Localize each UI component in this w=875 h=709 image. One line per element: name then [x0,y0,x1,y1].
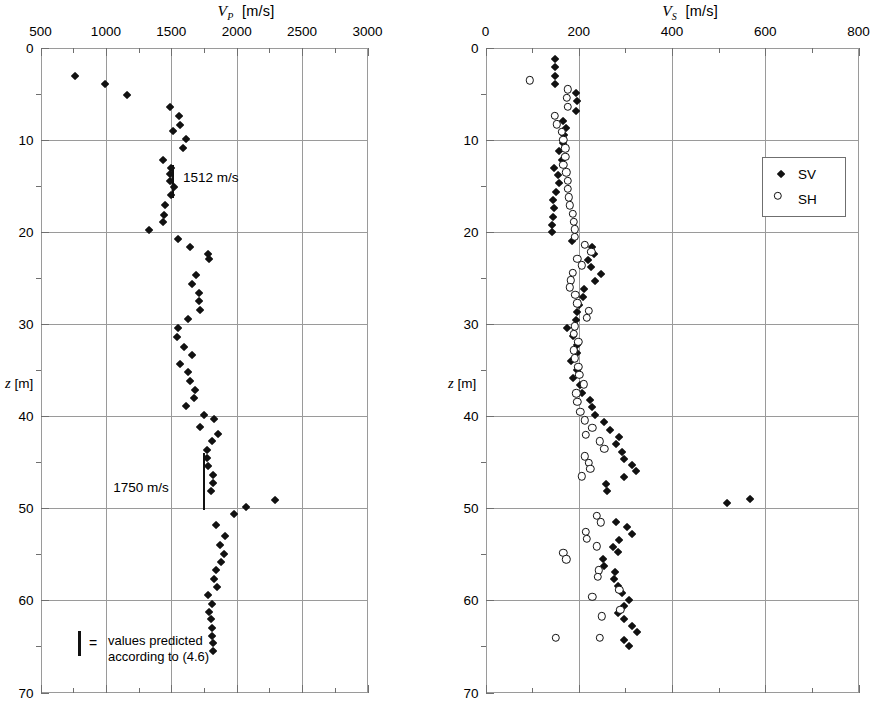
chart-vp-profile-ytick-minor [36,646,41,647]
chart-vp-profile-xtick-major [302,685,303,693]
chart-vp-profile-ytick-label: 30 [1,316,34,331]
chart-vp-profile-xtick-label: 2500 [287,24,317,39]
chart-vs-profile-ytick-label: 70 [446,685,479,700]
chart-vs-profile-ytick-minor [481,186,486,187]
chart-vs-profile-ytick-minor [481,554,486,555]
chart-vs-profile-ytick-label: 10 [446,132,479,147]
chart-vp-profile-gridline-y [41,600,368,601]
chart-vp-profile-xtick-minor [139,48,140,53]
chart-vp-profile-ytick-label: 10 [1,132,34,147]
vs-legend-box [762,157,846,217]
chart-vp-profile-ytick-minor [36,370,41,371]
chart-vp-profile-xtick-major [237,685,238,693]
chart-vp-profile-xtick-label: 1500 [156,24,186,39]
chart-vs-profile-ytick-major [486,140,494,141]
chart-vp-profile-ytick-label: 0 [1,40,34,55]
chart-vp-profile-xtick-major [302,48,303,56]
chart-vs-profile-gridline-y [486,232,859,233]
chart-vp-profile-y-axis-label: z [m] [5,375,33,392]
chart-vs-profile-xtick-label: 200 [567,24,590,39]
chart-vp-profile-xtick-major [237,48,238,56]
chart-vp-profile-xtick-label: 1000 [91,24,121,39]
chart-vp-profile-predicted-label: 1512 m/s [183,169,239,184]
chart-vs-profile-ytick-major [486,48,494,49]
chart-vs-profile-ytick-label: 50 [446,501,479,516]
chart-vp-profile-ytick-label: 20 [1,224,34,239]
chart-vp-profile-xtick-minor [73,48,74,53]
chart-vs-profile-y-axis-label: z [m] [448,375,476,392]
chart-vp-profile-gridline-x [237,48,238,693]
chart-vp-profile-ytick-major [41,693,49,694]
chart-vp-profile-gridline-y [41,140,368,141]
chart-vp-profile-xtick-minor [204,688,205,693]
chart-vs-profile-gridline-y [486,324,859,325]
chart-vs-profile-ytick-label: 40 [446,409,479,424]
chart-vp-profile-xtick-major [368,48,369,56]
chart-vp-profile-xtick-label: 500 [29,24,52,39]
vp-legend-line-2: according to (4.6) [108,649,209,665]
chart-vs-profile-gridline-y [486,140,859,141]
figure-canvas: VP [m/s]z [m]500100015002000250030000102… [0,0,875,709]
chart-vs-profile-ytick-major [486,693,494,694]
chart-vs-profile-ytick-major [486,416,494,417]
chart-vp-profile-predicted-bar [203,453,206,510]
chart-vs-profile-ytick-minor [481,646,486,647]
chart-vs-profile-xtick-minor [812,48,813,53]
chart-vp-profile-xtick-minor [335,48,336,53]
chart-vp-profile-xtick-label: 3000 [352,24,382,39]
chart-vp-profile-xtick-major [171,48,172,56]
chart-vp-profile-ytick-major [41,232,49,233]
vp-legend-equals: = [89,635,97,651]
chart-vp-profile-ytick-label: 40 [1,409,34,424]
chart-vp-profile-gridline-y [41,232,368,233]
chart-vp-profile-ytick-minor [36,186,41,187]
chart-vs-profile-ytick-label: 60 [446,593,479,608]
chart-vs-profile-xtick-major [765,685,766,693]
chart-vs-profile-ytick-major [486,232,494,233]
chart-vs-profile-xtick-major [672,685,673,693]
chart-vp-profile-gridline-x [302,48,303,693]
chart-vp-profile-xtick-minor [139,688,140,693]
chart-vs-profile-xtick-major [579,685,580,693]
chart-vs-profile-ytick-minor [481,370,486,371]
chart-vs-profile-ytick-minor [481,462,486,463]
chart-vp-profile-ytick-major [41,508,49,509]
chart-vs-profile-xtick-label: 400 [661,24,684,39]
chart-vs-profile-ytick-label: 0 [446,40,479,55]
chart-vs-profile-ytick-minor [481,94,486,95]
chart-vp-profile-xtick-major [368,685,369,693]
chart-vs-profile-xtick-minor [719,48,720,53]
chart-vp-profile-ytick-label: 60 [1,593,34,608]
chart-vp-profile-xtick-major [41,48,42,56]
chart-vp-profile-ytick-minor [36,554,41,555]
chart-vp-profile-xtick-major [41,685,42,693]
chart-vp-profile-xtick-minor [73,688,74,693]
chart-vs-profile-xtick-major [579,48,580,56]
chart-vp-profile-gridline-x [171,48,172,693]
chart-vp-profile-gridline-x [106,48,107,693]
chart-vs-profile-gridline-x [765,48,766,693]
chart-vs-profile-xtick-major [486,685,487,693]
chart-vp-profile-xtick-minor [335,688,336,693]
chart-vp-profile-ytick-label: 50 [1,501,34,516]
vs-legend-label-sh: SH [798,192,817,207]
chart-vs-profile-gridline-y [486,508,859,509]
chart-vs-profile-xtick-major [672,48,673,56]
chart-vp-profile-axis-title: VP [m/s] [218,2,275,22]
chart-vp-profile-xtick-major [171,685,172,693]
chart-vs-profile-xtick-minor [532,48,533,53]
chart-vs-profile-ytick-label: 20 [446,224,479,239]
chart-vp-profile-ytick-major [41,140,49,141]
chart-vs-profile-xtick-label: 600 [754,24,777,39]
chart-vp-profile-xtick-major [106,685,107,693]
chart-vs-profile-xtick-label: 0 [482,24,490,39]
chart-vs-profile-xtick-minor [719,688,720,693]
chart-vs-profile-xtick-minor [532,688,533,693]
chart-vs-profile-xtick-minor [625,48,626,53]
chart-vp-profile-ytick-minor [36,462,41,463]
chart-vs-profile-gridline-y [486,600,859,601]
chart-vp-profile-ytick-label: 70 [1,685,34,700]
chart-vp-profile-xtick-major [106,48,107,56]
chart-vs-profile-axis-title: VS [m/s] [662,2,718,22]
chart-vs-profile-xtick-minor [812,688,813,693]
